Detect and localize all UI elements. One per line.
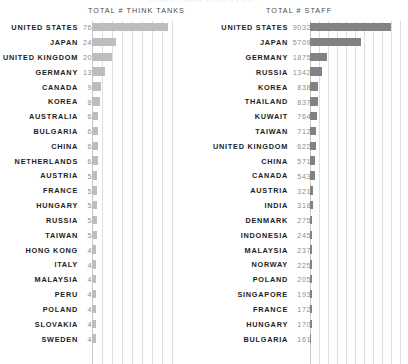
row-value-staff: 5709 xyxy=(290,38,311,47)
table-row: JAPAN5709 xyxy=(204,36,408,51)
row-label-staff: UNITED STATES xyxy=(204,23,288,32)
table-row: AUSTRIA321 xyxy=(204,184,408,199)
row-label-think-tanks: TAIWAN xyxy=(0,231,78,240)
row-label-think-tanks: RUSSIA xyxy=(0,216,78,225)
row-label-think-tanks: FRANCE xyxy=(0,186,78,195)
row-value-think-tanks: 8 xyxy=(79,98,92,107)
row-value-think-tanks: 5 xyxy=(79,172,92,181)
row-label-think-tanks: ITALY xyxy=(0,260,78,269)
row-label-staff: INDONESIA xyxy=(204,231,288,240)
row-label-think-tanks: AUSTRIA xyxy=(0,171,78,180)
row-value-staff: 9032 xyxy=(290,23,311,32)
table-row: NORWAY225 xyxy=(204,258,408,273)
row-label-think-tanks: UNITED STATES xyxy=(0,23,78,32)
row-label-think-tanks: HONG KONG xyxy=(0,246,78,255)
row-value-think-tanks: 4 xyxy=(79,246,92,255)
table-row: SINGAPORE193 xyxy=(204,288,408,303)
row-value-think-tanks: 4 xyxy=(79,335,92,344)
row-value-think-tanks: 20 xyxy=(79,53,92,62)
row-label-staff: AUSTRIA xyxy=(204,186,288,195)
panel-think-tanks-header: TOTAL # THINK TANKS xyxy=(88,6,185,15)
row-label-think-tanks: SLOVAKIA xyxy=(0,320,78,329)
row-label-staff: MALAYSIA xyxy=(204,246,288,255)
table-row: HONG KONG4 xyxy=(0,243,204,258)
row-label-staff: KUWAIT xyxy=(204,112,288,121)
row-label-staff: FRANCE xyxy=(204,305,288,314)
table-row: CHINA6 xyxy=(0,140,204,155)
table-row: UNITED STATES9032 xyxy=(204,21,408,36)
row-value-staff: 237 xyxy=(290,246,311,255)
row-value-think-tanks: 5 xyxy=(79,231,92,240)
row-label-staff: NORWAY xyxy=(204,260,288,269)
row-label-staff: THAILAND xyxy=(204,97,288,106)
table-row: UNITED KINGDOM622 xyxy=(204,140,408,155)
row-label-think-tanks: AUSTRALIA xyxy=(0,112,78,121)
table-row: INDIA318 xyxy=(204,199,408,214)
row-value-think-tanks: 76 xyxy=(79,23,92,32)
row-label-think-tanks: PERU xyxy=(0,290,78,299)
row-label-think-tanks: CANADA xyxy=(0,83,78,92)
row-value-think-tanks: 24 xyxy=(79,38,92,47)
table-row: NETHERLANDS6 xyxy=(0,154,204,169)
row-value-think-tanks: 5 xyxy=(79,187,92,196)
row-value-think-tanks: 4 xyxy=(79,261,92,270)
table-row: SLOVAKIA4 xyxy=(0,318,204,333)
table-row: BULGARIA6 xyxy=(0,125,204,140)
row-label-staff: TAIWAN xyxy=(204,127,288,136)
table-row: DENMARK275 xyxy=(204,214,408,229)
table-row: GERMANY13 xyxy=(0,65,204,80)
row-value-think-tanks: 4 xyxy=(79,320,92,329)
row-label-staff: CHINA xyxy=(204,157,288,166)
table-row: UNITED STATES76 xyxy=(0,21,204,36)
row-value-think-tanks: 6 xyxy=(79,157,92,166)
row-value-staff: 245 xyxy=(290,231,311,240)
table-row: CANADA543 xyxy=(204,169,408,184)
table-row: ITALY4 xyxy=(0,258,204,273)
row-value-staff: 193 xyxy=(290,290,311,299)
row-value-think-tanks: 6 xyxy=(79,127,92,136)
row-label-staff: JAPAN xyxy=(204,38,288,47)
row-label-think-tanks: HUNGARY xyxy=(0,201,78,210)
table-row: MALAYSIA4 xyxy=(0,273,204,288)
row-label-think-tanks: BULGARIA xyxy=(0,127,78,136)
row-label-think-tanks: UNITED KINGDOM xyxy=(0,53,78,62)
row-list-think-tanks: UNITED STATES76JAPAN24UNITED KINGDOM20GE… xyxy=(0,21,204,347)
row-label-staff: INDIA xyxy=(204,201,288,210)
row-value-think-tanks: 5 xyxy=(79,201,92,210)
row-label-think-tanks: POLAND xyxy=(0,305,78,314)
row-label-staff: DENMARK xyxy=(204,216,288,225)
row-value-staff: 205 xyxy=(290,275,311,284)
row-value-staff: 543 xyxy=(290,172,311,181)
table-row: SWEDEN4 xyxy=(0,332,204,347)
table-row: TAIWAN5 xyxy=(0,229,204,244)
row-value-staff: 275 xyxy=(290,216,311,225)
table-row: KUWAIT764 xyxy=(204,110,408,125)
table-row: AUSTRIA5 xyxy=(0,169,204,184)
row-value-staff: 161 xyxy=(290,335,311,344)
table-row: HUNGARY5 xyxy=(0,199,204,214)
row-label-think-tanks: SWEDEN xyxy=(0,335,78,344)
row-value-staff: 838 xyxy=(290,83,311,92)
chart-page: THINK TANK DIRECTORY TOTAL # THINK TANKS… xyxy=(0,0,408,364)
row-label-staff: RUSSIA xyxy=(204,68,288,77)
row-value-staff: 318 xyxy=(290,201,311,210)
row-label-staff: POLAND xyxy=(204,275,288,284)
table-row: POLAND4 xyxy=(0,303,204,318)
row-label-think-tanks: JAPAN xyxy=(0,38,78,47)
row-label-think-tanks: KOREA xyxy=(0,97,78,106)
row-value-staff: 172 xyxy=(290,305,311,314)
table-row: GERMANY1875 xyxy=(204,51,408,66)
row-label-staff: SINGAPORE xyxy=(204,290,288,299)
row-value-think-tanks: 4 xyxy=(79,290,92,299)
table-row: PERU4 xyxy=(0,288,204,303)
row-value-think-tanks: 6 xyxy=(79,142,92,151)
row-value-think-tanks: 4 xyxy=(79,305,92,314)
panel-think-tanks: TOTAL # THINK TANKS UNITED STATES76JAPAN… xyxy=(0,0,204,364)
table-row: RUSSIA5 xyxy=(0,214,204,229)
row-value-staff: 1875 xyxy=(290,53,311,62)
table-row: KOREA8 xyxy=(0,95,204,110)
table-row: MALAYSIA237 xyxy=(204,243,408,258)
table-row: CHINA571 xyxy=(204,154,408,169)
row-value-staff: 225 xyxy=(290,261,311,270)
row-value-staff: 170 xyxy=(290,320,311,329)
